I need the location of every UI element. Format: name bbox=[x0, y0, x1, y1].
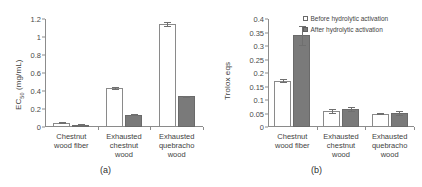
y-axis-title-a-unit: (mg/mL) bbox=[14, 60, 23, 93]
y-axis-tick-mark bbox=[265, 59, 268, 60]
y-axis-title-a: EC50 (mg/mL) bbox=[14, 60, 25, 110]
y-axis-title-b-text: Trolox eqs bbox=[223, 62, 232, 100]
plot-area-a: 00.20.40.60.811.2 bbox=[45, 19, 203, 127]
y-axis-tick-mark bbox=[265, 100, 268, 101]
error-bar-cap bbox=[377, 114, 384, 115]
y-axis-tick-mark bbox=[265, 32, 268, 33]
error-bar-cap bbox=[131, 115, 138, 116]
error-bar-cap bbox=[280, 82, 287, 83]
x-axis-category-label: Exhaustedquebrachowood bbox=[144, 132, 209, 159]
bar-before bbox=[159, 24, 176, 127]
y-axis-tick-mark bbox=[265, 113, 268, 114]
y-axis-tick-mark bbox=[265, 73, 268, 74]
y-axis-tick-mark bbox=[42, 37, 45, 38]
legend-item: After hydrolytic activation bbox=[303, 25, 388, 34]
x-axis-tick-mark bbox=[203, 127, 204, 130]
x-axis-category-line: wood bbox=[359, 150, 420, 159]
error-bar-cap bbox=[280, 79, 287, 80]
legend-swatch-before-icon bbox=[303, 16, 308, 21]
error-bar-cap bbox=[329, 113, 336, 114]
y-axis-tick-mark bbox=[42, 73, 45, 74]
y-axis-tick-mark bbox=[42, 19, 45, 20]
x-axis-tick-mark bbox=[365, 127, 366, 130]
error-bar-cap bbox=[164, 26, 171, 27]
chart-panel-b: Trolox eqs 00.050.10.150.20.250.30.350.4… bbox=[211, 0, 422, 187]
chart-legend: Before hydrolytic activationAfter hydrol… bbox=[303, 14, 388, 36]
bar-after bbox=[125, 115, 142, 127]
y-axis-tick-mark bbox=[265, 19, 268, 20]
x-axis-category-line: wood bbox=[144, 150, 209, 159]
error-bar-cap bbox=[299, 45, 306, 46]
y-axis-tick-mark bbox=[265, 127, 268, 128]
y-axis-title-a-subscript: 50 bbox=[19, 92, 25, 98]
y-axis-title-a-text: EC bbox=[14, 99, 23, 110]
x-axis-category-label: Exhaustedquebrachowood bbox=[359, 132, 420, 159]
bar-before bbox=[274, 81, 291, 127]
legend-item-label: Before hydrolytic activation bbox=[311, 14, 389, 23]
error-bar-cap bbox=[59, 123, 66, 124]
bar-before bbox=[372, 114, 389, 128]
legend-item-label: After hydrolytic activation bbox=[311, 25, 383, 34]
legend-swatch-after-icon bbox=[303, 27, 308, 32]
figure-container: EC50 (mg/mL) 00.20.40.60.811.2 (a) Chest… bbox=[0, 0, 422, 187]
bar-after bbox=[178, 96, 195, 127]
y-axis-tick-mark bbox=[265, 46, 268, 47]
y-axis-line-a bbox=[45, 19, 46, 127]
bar-after bbox=[293, 35, 310, 127]
x-axis-tick-mark bbox=[414, 127, 415, 130]
panel-caption-b: (b) bbox=[211, 165, 422, 175]
x-axis-tick-mark bbox=[150, 127, 151, 130]
y-axis-tick-mark bbox=[42, 55, 45, 56]
y-axis-tick-mark bbox=[42, 109, 45, 110]
x-axis-category-line: Exhausted bbox=[144, 132, 209, 141]
error-bar-cap bbox=[348, 107, 355, 108]
y-axis-title-b: Trolox eqs bbox=[223, 62, 232, 100]
bar-before bbox=[106, 88, 123, 127]
error-bar-cap bbox=[329, 109, 336, 110]
error-bar-cap bbox=[112, 89, 119, 90]
chart-panel-a: EC50 (mg/mL) 00.20.40.60.811.2 (a) Chest… bbox=[0, 0, 211, 187]
x-axis-tick-mark bbox=[317, 127, 318, 130]
panel-caption-a: (a) bbox=[0, 165, 211, 175]
error-bar-cap bbox=[183, 97, 190, 98]
error-bar-cap bbox=[348, 111, 355, 112]
error-bar-cap bbox=[78, 125, 85, 126]
x-axis-category-line: quebracho bbox=[359, 141, 420, 150]
legend-item: Before hydrolytic activation bbox=[303, 14, 388, 23]
error-bar-cap bbox=[164, 22, 171, 23]
error-bar-cap bbox=[396, 111, 403, 112]
y-axis-tick-mark bbox=[265, 86, 268, 87]
error-bar-cap bbox=[396, 115, 403, 116]
y-axis-tick-mark bbox=[42, 127, 45, 128]
x-axis-tick-mark bbox=[98, 127, 99, 130]
x-axis-category-line: Exhausted bbox=[359, 132, 420, 141]
x-axis-category-line: quebracho bbox=[144, 141, 209, 150]
y-axis-line-b bbox=[268, 19, 269, 127]
y-axis-tick-mark bbox=[42, 91, 45, 92]
